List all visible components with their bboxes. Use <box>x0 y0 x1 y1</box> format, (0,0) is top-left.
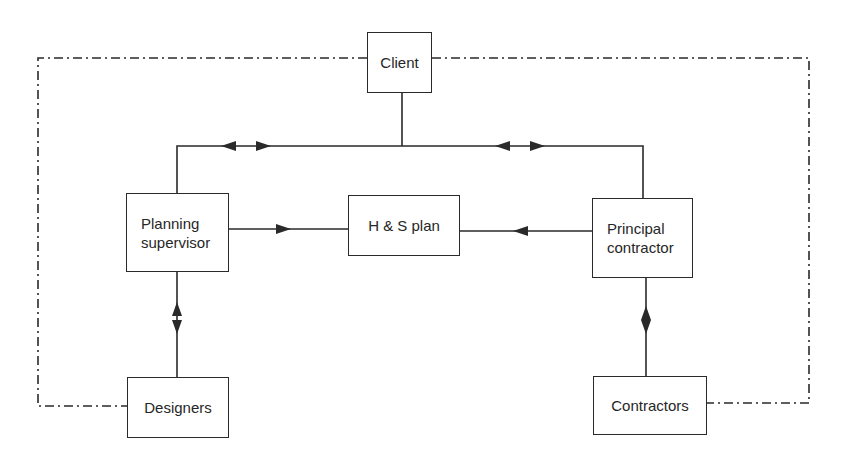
node-planning-supervisor-line2: supervisor <box>141 233 210 252</box>
arrow-left-icon <box>495 141 510 151</box>
arrow-down-icon <box>641 320 651 334</box>
arrow-right-icon <box>276 224 291 234</box>
arrow-down-icon <box>172 320 182 334</box>
arrow-right-icon <box>256 141 271 151</box>
node-hs-plan-label: H & S plan <box>368 216 440 235</box>
node-designers-label: Designers <box>144 398 212 417</box>
arrow-left-icon <box>221 141 236 151</box>
node-contractors: Contractors <box>593 376 707 435</box>
line-top-bus <box>177 146 643 198</box>
node-contractors-label: Contractors <box>611 396 689 415</box>
node-principal-contractor-line1: Principal <box>607 219 674 238</box>
arrow-up-icon <box>172 302 182 316</box>
node-principal-contractor-line2: contractor <box>607 238 674 257</box>
node-designers: Designers <box>127 377 229 438</box>
node-hs-plan: H & S plan <box>348 195 460 256</box>
node-planning-supervisor: Planning supervisor <box>126 193 229 272</box>
node-client: Client <box>367 32 432 93</box>
node-planning-supervisor-line1: Planning <box>141 214 210 233</box>
node-principal-contractor: Principal contractor <box>592 198 693 278</box>
node-client-label: Client <box>380 53 418 72</box>
arrow-right-icon <box>530 141 545 151</box>
arrow-left-icon <box>513 226 528 236</box>
arrow-up-icon <box>641 306 651 320</box>
